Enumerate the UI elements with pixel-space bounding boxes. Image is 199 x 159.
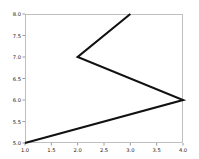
y-tick-label: 5.5 — [13, 119, 21, 125]
y-tick-label: 8.0 — [13, 11, 21, 17]
x-tick-label: 3.0 — [126, 147, 134, 153]
y-tick-label: 6.0 — [13, 97, 21, 103]
y-tick-label: 6.5 — [13, 76, 21, 82]
x-tick-label: 1.0 — [21, 147, 29, 153]
y-tick-label: 7.0 — [13, 54, 21, 60]
y-tick-label: 7.5 — [13, 33, 21, 39]
x-tick-label: 2.0 — [74, 147, 82, 153]
x-tick-label: 2.5 — [100, 147, 108, 153]
line-chart: 1.01.52.02.53.03.54.0 5.05.56.06.57.07.5… — [0, 0, 199, 159]
x-tick-label: 1.5 — [47, 147, 55, 153]
y-tick-label: 5.0 — [13, 140, 21, 146]
x-tick-label: 3.5 — [153, 147, 161, 153]
x-tick-label: 4.0 — [179, 147, 187, 153]
axes-background — [25, 14, 183, 143]
figure-canvas: 1.01.52.02.53.03.54.0 5.05.56.06.57.07.5… — [0, 0, 199, 159]
